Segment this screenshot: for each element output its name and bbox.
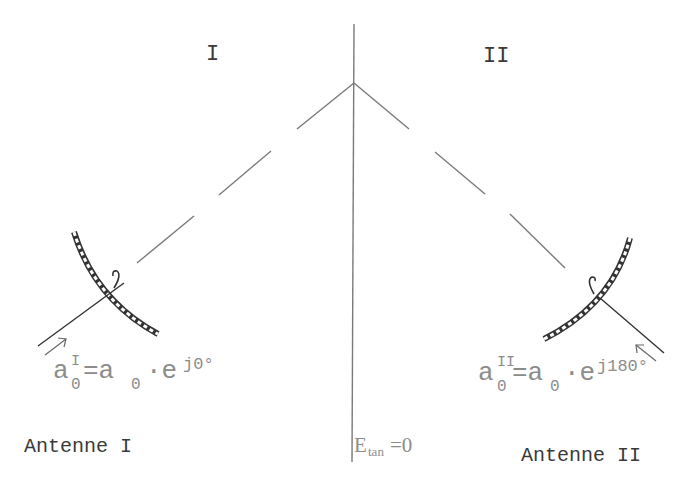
region-label-right: II [483,44,509,69]
antenna-right [544,238,664,361]
svg-text:j180°: j180° [597,357,648,376]
svg-text:j0°: j0° [183,355,214,374]
antenna-left [38,232,158,355]
feed-arrow-left-icon [45,339,66,355]
svg-text:a: a [53,356,69,386]
svg-text:0: 0 [71,376,81,394]
svg-text:=a: =a [512,358,543,388]
svg-text:0: 0 [131,376,141,394]
svg-text:·e: ·e [146,356,177,386]
symmetry-plane-line [352,24,354,462]
antenna-label-left: Antenne I [24,435,132,458]
svg-text:·e: ·e [564,358,595,388]
svg-text:0: 0 [497,378,507,396]
svg-text:I: I [71,353,80,370]
antenna-mirror-diagram: I II a 0 I =a 0 ·e j0° a 0 II =a 0 ·e j1… [0,0,695,484]
left-ray [137,83,354,263]
formula-right: a 0 II =a 0 ·e j180° [478,354,648,396]
svg-text:E: E [354,433,367,457]
antenna-label-right: Antenne II [521,444,641,467]
svg-text:a: a [478,358,494,388]
region-label-left: I [206,42,219,67]
svg-text:=0: =0 [390,433,412,457]
right-ray [354,83,565,268]
svg-text:tan: tan [368,444,384,459]
formula-left: a 0 I =a 0 ·e j0° [53,353,214,394]
svg-text:=a: =a [83,356,114,386]
svg-text:0: 0 [550,378,560,396]
boundary-condition-label: E tan =0 [354,433,412,459]
